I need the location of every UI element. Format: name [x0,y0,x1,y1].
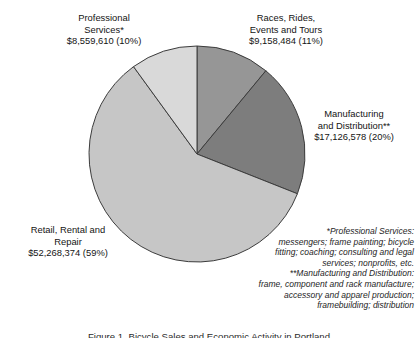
pie-chart-figure: Professional Services* $8,559,610 (10%) … [0,0,418,338]
figure-caption: Figure 1. Bicycle Sales and Economic Act… [0,331,418,338]
slice-label-professional-services: Professional Services* $8,559,610 (10%) [34,12,174,47]
footnotes-block: *Professional Services: messengers; fram… [208,226,414,311]
footnote-manufacturing-distribution: **Manufacturing and Distribution: frame,… [208,268,414,310]
slice-label-races-rides: Races, Rides, Events and Tours $9,158,48… [216,12,356,47]
slice-label-retail-rental-repair: Retail, Rental and Repair $52,268,374 (5… [0,224,138,259]
slice-label-manufacturing-distribution: Manufacturing and Distribution** $17,126… [290,108,418,143]
footnote-professional-services: *Professional Services: messengers; fram… [208,226,414,268]
